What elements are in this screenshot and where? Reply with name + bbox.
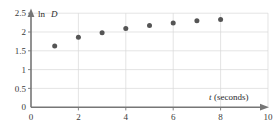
xtick-label-6: 6 [171,112,176,122]
data-point [76,35,81,40]
data-point [100,30,105,35]
data-point [52,43,57,48]
data-point [194,18,199,23]
x-tick-labels: 0 2 4 6 8 10 [29,112,273,122]
ytick-label-2: 2 [22,27,27,37]
y-axis [28,9,35,108]
y-axis-title-ln: ln [38,9,46,19]
xtick-label-2: 2 [76,112,81,122]
x-axis-title: t (seconds) [209,92,249,102]
data-point [218,17,223,22]
chart-canvas: 2.5 2 1.5 1 0.5 0 0 2 4 6 8 10 ln D t (s… [0,0,280,132]
y-tick-labels: 2.5 2 1.5 1 0.5 0 [15,8,27,112]
data-point [123,26,128,31]
y-axis-title: ln D [38,9,58,19]
x-axis-title-t: t [209,92,212,102]
ytick-label-0.5: 0.5 [15,84,27,94]
data-point-series [52,17,223,48]
xtick-label-8: 8 [218,112,223,122]
y-axis-title-d: D [50,9,58,19]
xtick-label-10: 10 [264,112,274,122]
xtick-label-0: 0 [29,112,34,122]
scatter-chart: 2.5 2 1.5 1 0.5 0 0 2 4 6 8 10 ln D t (s… [0,0,280,132]
data-point [171,20,176,25]
ytick-label-2.5: 2.5 [15,8,27,18]
data-point [147,23,152,28]
ytick-label-0: 0 [22,102,27,112]
ytick-label-1: 1 [22,65,27,75]
ytick-label-1.5: 1.5 [15,46,27,56]
xtick-label-4: 4 [124,112,129,122]
x-axis-title-seconds: (seconds) [214,92,249,102]
x-axis [31,104,269,111]
